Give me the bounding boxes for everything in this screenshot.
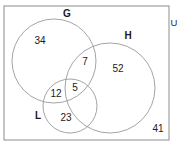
set-label-l: L — [35, 110, 41, 121]
region-count-h-only: 52 — [112, 63, 124, 74]
universe-rectangle — [4, 6, 169, 140]
region-count-g-and-l-only: 12 — [50, 88, 62, 99]
region-count-outside-all-sets: 41 — [152, 123, 164, 134]
set-circle-h — [65, 43, 155, 133]
universe-label: U — [171, 17, 178, 28]
region-count-l-and-h-only: 23 — [60, 112, 72, 123]
region-count-g-and-h-only: 7 — [82, 56, 88, 67]
set-label-g: G — [63, 8, 71, 19]
venn-diagram-canvas: G H L U 34 7 52 12 5 23 41 — [0, 0, 184, 145]
venn-diagram: G H L U 34 7 52 12 5 23 41 — [0, 0, 184, 145]
region-count-g-only: 34 — [34, 35, 46, 46]
set-label-h: H — [124, 30, 131, 41]
region-count-g-and-h-and-l: 5 — [72, 82, 78, 93]
